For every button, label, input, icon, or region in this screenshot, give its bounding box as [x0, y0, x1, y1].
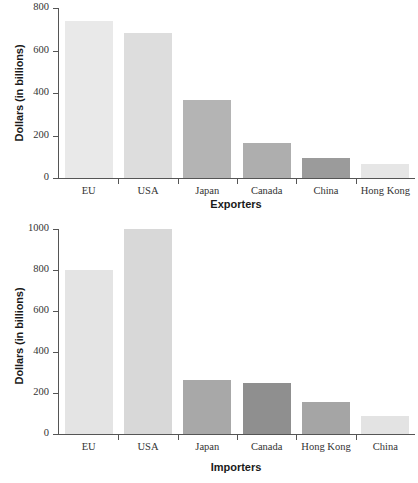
plot-area-exporters: EUUSAJapanCanadaChinaHong Kong 020040060…: [58, 8, 415, 179]
y-axis-tick: 1000: [53, 229, 59, 230]
y-axis-tick-label: 200: [33, 129, 49, 140]
x-axis-tick: [178, 178, 179, 184]
x-axis-label-usa: USA: [118, 441, 177, 452]
y-axis-tick: 200: [53, 393, 59, 394]
bar-japan: [183, 380, 231, 434]
figure-two-bar-charts: Dollars (in billions) EUUSAJapanCanadaCh…: [0, 0, 418, 483]
x-axis-label-canada: Canada: [237, 441, 296, 452]
y-axis-tick: 800: [53, 270, 59, 271]
bar-usa: [124, 229, 172, 434]
x-axis-title-exporters: Exporters: [58, 198, 414, 210]
bar-china: [302, 158, 350, 178]
bar-hong-kong: [361, 164, 409, 178]
x-axis-title-importers: Importers: [58, 461, 414, 473]
x-axis-label-usa: USA: [118, 185, 177, 196]
plot-area-importers: EUUSAJapanCanadaHong KongChina 020040060…: [58, 229, 415, 435]
x-axis-tick: [237, 434, 238, 440]
bar-usa: [124, 33, 172, 178]
bar-eu: [65, 270, 113, 434]
chart-importers: Dollars (in billions) EUUSAJapanCanadaHo…: [0, 215, 418, 483]
x-axis-label-japan: Japan: [178, 441, 237, 452]
y-axis-tick-label: 1000: [28, 222, 49, 233]
x-axis-tick: [118, 178, 119, 184]
y-axis-tick-label: 800: [33, 1, 49, 12]
y-axis-tick-label: 800: [33, 263, 49, 274]
bar-japan: [183, 100, 231, 178]
x-axis-label-china: China: [296, 185, 355, 196]
bar-eu: [65, 21, 113, 178]
x-axis-tick: [356, 178, 357, 184]
x-axis-label-hong-kong: Hong Kong: [296, 441, 355, 452]
x-axis-label-eu: EU: [59, 185, 118, 196]
bar-hong-kong: [302, 402, 350, 434]
y-axis-tick: 400: [53, 352, 59, 353]
x-axis-label-canada: Canada: [237, 185, 296, 196]
y-axis-tick-label: 0: [44, 171, 49, 182]
bar-series-exporters: [59, 8, 415, 178]
x-axis-label-japan: Japan: [178, 185, 237, 196]
x-axis-label-hong-kong: Hong Kong: [356, 185, 415, 196]
x-axis-tick: [296, 434, 297, 440]
y-axis-tick: 600: [53, 51, 59, 52]
y-axis-tick: 400: [53, 93, 59, 94]
x-axis-label-eu: EU: [59, 441, 118, 452]
y-axis-tick: 0: [53, 434, 59, 435]
bar-series-importers: [59, 229, 415, 434]
y-axis-tick-label: 600: [33, 304, 49, 315]
x-axis-tick: [356, 434, 357, 440]
y-axis-tick: 600: [53, 311, 59, 312]
x-axis-tick: [118, 434, 119, 440]
y-axis-tick-label: 400: [33, 86, 49, 97]
y-axis-title-importers: Dollars (in billions): [13, 251, 25, 421]
bar-china: [361, 416, 409, 434]
y-axis-tick: 0: [53, 178, 59, 179]
bar-canada: [243, 143, 291, 178]
y-axis-tick-label: 0: [44, 427, 49, 438]
bar-canada: [243, 383, 291, 434]
y-axis-tick: 800: [53, 8, 59, 9]
x-axis-tick: [296, 178, 297, 184]
chart-exporters: Dollars (in billions) EUUSAJapanCanadaCh…: [0, 0, 418, 218]
x-axis-label-china: China: [356, 441, 415, 452]
y-axis-tick-label: 200: [33, 386, 49, 397]
x-axis-tick: [237, 178, 238, 184]
y-axis-tick: 200: [53, 136, 59, 137]
x-axis-tick: [178, 434, 179, 440]
y-axis-title-exporters: Dollars (in billions): [13, 18, 25, 168]
y-axis-tick-label: 600: [33, 44, 49, 55]
y-axis-tick-label: 400: [33, 345, 49, 356]
